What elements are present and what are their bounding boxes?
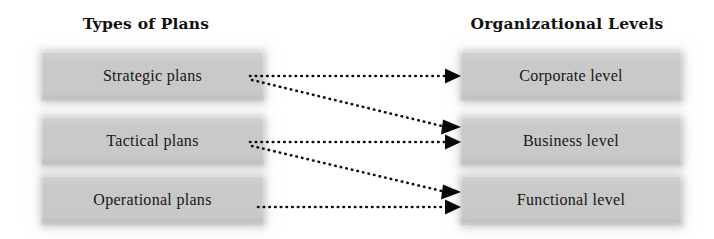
node-label: Business level — [523, 132, 619, 150]
connector-strategic-to-business — [252, 80, 461, 135]
connector-operational-to-functional — [258, 200, 461, 215]
connector-tactical-to-functional — [252, 146, 461, 200]
node-label: Operational plans — [93, 191, 211, 209]
node-label: Functional level — [517, 191, 625, 209]
arrowhead-icon — [441, 120, 461, 135]
node-label: Corporate level — [519, 67, 623, 85]
plans-to-levels-diagram: Types of Plans Organizational Levels Str… — [0, 0, 714, 239]
arrowhead-icon — [445, 69, 461, 84]
node-label: Tactical plans — [106, 132, 198, 150]
node-label: Strategic plans — [103, 67, 202, 85]
connector-strategic-to-corporate — [250, 69, 461, 84]
connector-tactical-to-business — [250, 135, 461, 150]
arrowhead-icon — [445, 200, 461, 215]
arrowhead-icon — [445, 135, 461, 150]
arrowhead-icon — [441, 185, 461, 200]
